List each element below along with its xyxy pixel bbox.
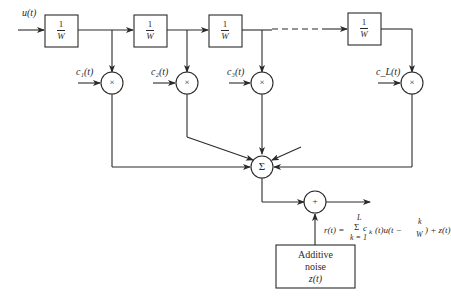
summer-symbol: Σ [252, 161, 272, 172]
tap-gain-L-label: c_L(t) [376, 67, 400, 77]
tap-gain-1-label: c₁(t) [76, 67, 93, 77]
delay-block-3-label: 1 W [210, 20, 240, 41]
adder-symbol: + [305, 197, 325, 206]
delay-block-1-label: 1 W [46, 20, 76, 41]
delay-block-L-label: 1 W [349, 18, 379, 39]
diagram-lines [0, 0, 451, 302]
multiplier-2-symbol: × [177, 78, 197, 87]
tap-gain-3-label: c₃(t) [227, 67, 244, 77]
input-label: u(t) [22, 8, 36, 18]
noise-block-label: Additive noise z(t) [276, 249, 355, 285]
multiplier-1-symbol: × [102, 78, 122, 87]
tap-gain-2-label: c₂(t) [151, 67, 168, 77]
multiplier-L-symbol: × [402, 78, 422, 87]
multiplier-3-symbol: × [252, 78, 272, 87]
delay-block-2-label: 1 W [135, 20, 165, 41]
